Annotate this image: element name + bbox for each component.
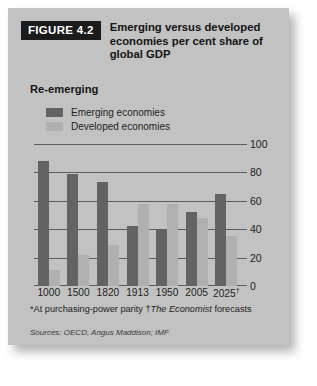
bar-group-1913 <box>123 144 153 286</box>
bar-developed-1500 <box>78 255 89 286</box>
legend-swatch-developed <box>46 122 63 131</box>
figure-header: FIGURE 4.2 Emerging versus developed eco… <box>21 21 279 62</box>
bar-developed-1913 <box>138 204 149 286</box>
bar-group-2025 <box>211 144 241 286</box>
legend-label-emerging: Emerging economies <box>71 107 165 118</box>
y-axis-label-60: 60 <box>250 195 262 207</box>
footnote-ppp: *At purchasing-power parity <box>30 304 143 314</box>
footnote-forecast-text: forecasts <box>212 304 252 314</box>
bar-emerging-1913 <box>127 226 138 286</box>
bar-emerging-2025 <box>215 194 226 286</box>
bar-group-1500 <box>64 144 94 286</box>
footnote-source-name: The Economist <box>151 304 212 314</box>
chart-footnote: *At purchasing-power parity †The Economi… <box>30 304 252 314</box>
y-tick-100 <box>241 144 247 145</box>
bar-developed-1950 <box>167 204 178 286</box>
bar-chart: 020406080100 100015001820191319502005202… <box>34 144 274 286</box>
bar-emerging-1950 <box>156 229 167 286</box>
legend-item-emerging: Emerging economies <box>46 107 170 118</box>
chart-plot-area <box>34 144 241 286</box>
x-axis-label-1500: 1500 <box>64 287 94 299</box>
x-axis-label-1000: 1000 <box>34 287 64 299</box>
chart-legend: Emerging economies Developed economies <box>46 107 170 135</box>
bar-emerging-1820 <box>97 182 108 286</box>
y-tick-40 <box>241 229 247 230</box>
bar-group-1000 <box>34 144 64 286</box>
y-axis-label-0: 0 <box>250 280 256 292</box>
y-axis-label-20: 20 <box>250 252 262 264</box>
bar-developed-2025 <box>226 236 237 286</box>
legend-swatch-emerging <box>46 108 63 117</box>
legend-label-developed: Developed economies <box>71 121 170 132</box>
bar-emerging-2005 <box>186 212 197 286</box>
y-tick-60 <box>241 201 247 202</box>
figure-title: Emerging versus developed economies per … <box>110 21 279 62</box>
figure-card: FIGURE 4.2 Emerging versus developed eco… <box>8 8 289 345</box>
bar-emerging-1000 <box>38 161 49 286</box>
x-axis-label-2025: 2025† <box>211 287 241 299</box>
figure-number-badge: FIGURE 4.2 <box>21 21 101 40</box>
y-axis-label-80: 80 <box>250 166 262 178</box>
x-axis-label-1820: 1820 <box>93 287 123 299</box>
x-axis-label-1913: 1913 <box>123 287 153 299</box>
x-axis-label-1950: 1950 <box>152 287 182 299</box>
y-axis-label-100: 100 <box>250 138 268 150</box>
chart-sources: Sources: OECD, Angus Maddison; IMF <box>30 328 169 337</box>
chart-subtitle: Re-emerging <box>30 83 98 95</box>
bar-emerging-1500 <box>67 174 78 286</box>
chart-x-axis: 1000150018201913195020052025† <box>34 287 241 299</box>
y-tick-80 <box>241 172 247 173</box>
x-axis-label-2005: 2005 <box>182 287 212 299</box>
bar-group-2005 <box>182 144 212 286</box>
y-tick-0 <box>241 285 247 286</box>
bar-developed-1000 <box>49 270 60 286</box>
chart-bars <box>34 144 241 286</box>
legend-item-developed: Developed economies <box>46 121 170 132</box>
y-axis-label-40: 40 <box>250 223 262 235</box>
bar-group-1820 <box>93 144 123 286</box>
bar-group-1950 <box>152 144 182 286</box>
bar-developed-2005 <box>197 218 208 286</box>
y-tick-20 <box>241 258 247 259</box>
bar-developed-1820 <box>108 245 119 286</box>
